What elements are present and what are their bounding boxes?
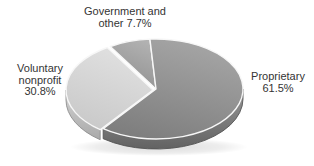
label-line: other 7.7% [65,18,185,30]
label-government-and-other: Government and other 7.7% [65,6,185,29]
label-line: Proprietary [239,71,314,83]
label-line: 61.5% [239,83,314,95]
label-proprietary: Proprietary 61.5% [239,71,314,94]
pie-chart-figure: Government and other 7.7% Voluntary nonp… [0,0,314,166]
label-voluntary-nonprofit: Voluntary nonprofit 30.8% [2,63,78,98]
label-line: 30.8% [2,86,78,98]
label-line: Voluntary [2,63,78,75]
label-line: Government and [65,6,185,18]
